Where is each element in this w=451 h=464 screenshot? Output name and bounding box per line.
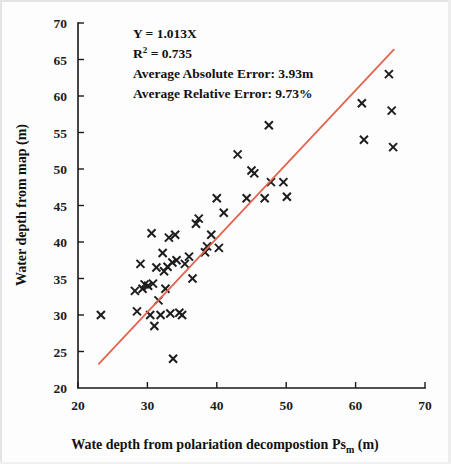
- x-tick-label: 40: [210, 398, 224, 413]
- x-tick-label: 70: [418, 398, 432, 413]
- y-axis-title: Water depth from map (m): [14, 124, 30, 286]
- data-point: [152, 264, 160, 272]
- r-squared-label: R2 = 0.735: [133, 45, 192, 61]
- y-tick-label: 65: [54, 53, 68, 68]
- average-absolute-error-label: Average Absolute Error: 3.93m: [133, 66, 314, 81]
- x-axis-tick-labels: 203040506070: [71, 398, 432, 413]
- average-relative-error-label: Average Relative Error: 9.73%: [133, 86, 312, 101]
- data-point: [250, 169, 258, 177]
- data-point: [213, 194, 221, 202]
- x-tick-label: 60: [349, 398, 363, 413]
- data-point: [181, 260, 189, 268]
- statistics-annotation: Y = 1.013X R2 = 0.735 Average Absolute E…: [133, 26, 314, 101]
- y-axis-ticks: [78, 23, 84, 352]
- y-tick-label: 55: [54, 126, 68, 141]
- y-tick-label: 70: [54, 16, 68, 31]
- data-point: [207, 231, 215, 239]
- data-point: [360, 136, 368, 144]
- data-point: [215, 244, 223, 252]
- y-tick-label: 30: [54, 308, 68, 323]
- data-point: [133, 307, 141, 315]
- data-point: [358, 99, 366, 107]
- data-point: [389, 143, 397, 151]
- y-tick-label: 40: [54, 235, 68, 250]
- data-point: [136, 260, 144, 268]
- data-point: [261, 194, 269, 202]
- y-tick-label: 50: [54, 162, 68, 177]
- data-point: [189, 275, 197, 283]
- y-tick-label: 60: [54, 89, 68, 104]
- data-point: [157, 311, 165, 319]
- x-axis-ticks: [78, 382, 425, 388]
- data-point: [283, 193, 291, 201]
- x-tick-label: 20: [71, 398, 85, 413]
- equation-label: Y = 1.013X: [133, 26, 197, 41]
- data-point: [131, 287, 139, 295]
- data-point: [279, 178, 287, 186]
- data-point: [265, 121, 273, 129]
- data-point: [234, 150, 242, 158]
- x-tick-label: 50: [279, 398, 293, 413]
- y-axis-tick-labels: 2025303540455055606570: [54, 16, 68, 396]
- data-point: [159, 249, 167, 257]
- data-point: [169, 355, 177, 363]
- figure-container: 203040506070 2025303540455055606570 Y = …: [0, 0, 451, 464]
- x-axis-title: Wate depth from polariation decompostion…: [71, 437, 379, 455]
- scatter-plot: 203040506070 2025303540455055606570 Y = …: [0, 0, 451, 464]
- data-point: [178, 311, 186, 319]
- y-tick-label: 25: [54, 345, 68, 360]
- data-point: [185, 253, 193, 261]
- data-point: [150, 322, 158, 330]
- data-point: [243, 194, 251, 202]
- y-tick-label: 35: [54, 272, 68, 287]
- data-point: [148, 229, 156, 237]
- data-point: [385, 70, 393, 78]
- y-tick-label: 45: [54, 199, 68, 214]
- y-tick-label: 20: [54, 381, 68, 396]
- data-point: [220, 209, 228, 217]
- data-point: [388, 107, 396, 115]
- x-tick-label: 30: [141, 398, 155, 413]
- data-point: [97, 311, 105, 319]
- data-point: [166, 310, 174, 318]
